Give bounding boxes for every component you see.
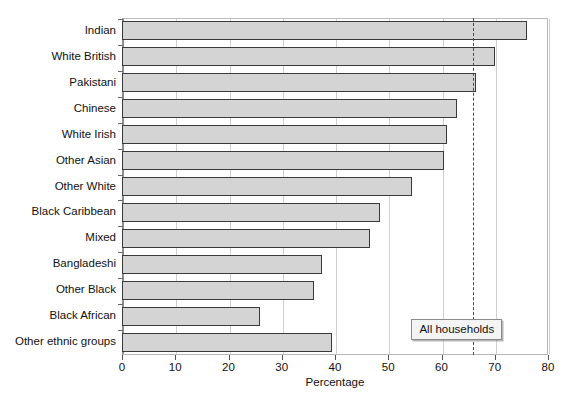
x-tick-label-40: 40	[329, 361, 342, 373]
x-tick-label-70: 70	[488, 361, 501, 373]
x-tick-mark-30	[282, 355, 283, 360]
category-label-white-british: White British	[0, 50, 116, 62]
category-label-indian: Indian	[0, 24, 116, 36]
x-tick-mark-0	[122, 355, 123, 360]
category-label-black-caribbean: Black Caribbean	[0, 205, 116, 217]
x-tick-mark-60	[442, 355, 443, 360]
category-label-chinese: Chinese	[0, 102, 116, 114]
x-tick-label-10: 10	[169, 361, 182, 373]
category-label-other-black: Other Black	[0, 283, 116, 295]
bar-chart: IndianWhite BritishPakistaniChineseWhite…	[0, 0, 585, 406]
category-label-black-african: Black African	[0, 309, 116, 321]
category-label-white-irish: White Irish	[0, 128, 116, 140]
category-label-bangladeshi: Bangladeshi	[0, 257, 116, 269]
x-tick-mark-40	[335, 355, 336, 360]
x-tick-mark-80	[548, 355, 549, 360]
x-tick-label-0: 0	[119, 361, 125, 373]
reference-line-all-households	[473, 18, 474, 355]
x-tick-mark-70	[495, 355, 496, 360]
category-labels: IndianWhite BritishPakistaniChineseWhite…	[0, 18, 585, 355]
x-tick-label-50: 50	[382, 361, 395, 373]
x-axis-title: Percentage	[122, 376, 548, 388]
x-tick-label-80: 80	[542, 361, 555, 373]
category-label-other-white: Other White	[0, 180, 116, 192]
x-tick-mark-20	[229, 355, 230, 360]
category-label-other-ethnic-groups: Other ethnic groups	[0, 335, 116, 347]
category-label-pakistani: Pakistani	[0, 76, 116, 88]
x-tick-label-20: 20	[222, 361, 235, 373]
x-tick-label-30: 30	[275, 361, 288, 373]
annotation-all-households: All households	[411, 319, 502, 340]
category-label-other-asian: Other Asian	[0, 154, 116, 166]
x-tick-mark-50	[388, 355, 389, 360]
x-tick-label-60: 60	[435, 361, 448, 373]
category-label-mixed: Mixed	[0, 231, 116, 243]
x-tick-mark-10	[175, 355, 176, 360]
